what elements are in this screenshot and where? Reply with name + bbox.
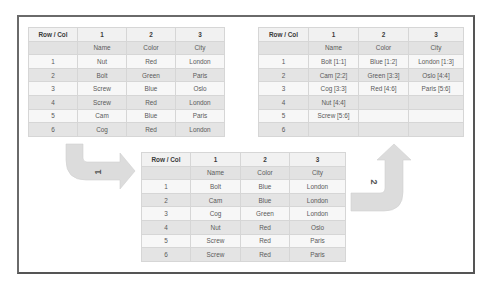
arrows-layer: [0, 0, 488, 286]
step1-label: 1: [93, 169, 103, 174]
step2-label: 2: [369, 179, 379, 184]
step2-arrow-icon: [351, 144, 411, 211]
step1-arrow-icon: [66, 144, 135, 189]
